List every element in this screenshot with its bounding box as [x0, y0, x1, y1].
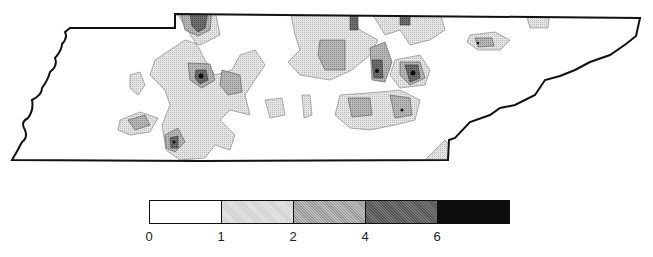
legend-tick-1: 1: [217, 229, 224, 244]
legend-tick-4: 4: [361, 229, 368, 244]
legend-bar: [149, 200, 510, 224]
legend-bin-1-2: [222, 201, 294, 223]
contour-fills: [118, 10, 550, 165]
legend-bin-0-1: [150, 201, 222, 223]
legend-tick-6: 6: [433, 229, 440, 244]
legend-bin-6-plus: [438, 201, 509, 223]
legend-tick-0: 0: [145, 229, 152, 244]
legend-bin-4-6: [366, 201, 438, 223]
legend-bin-2-4: [294, 201, 366, 223]
tennessee-contour-map: [0, 0, 653, 190]
legend-tick-2: 2: [289, 229, 296, 244]
